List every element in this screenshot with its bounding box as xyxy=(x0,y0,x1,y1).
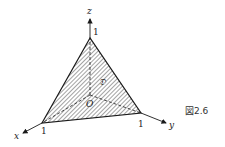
y-tick-label: 1 xyxy=(138,119,144,129)
x-axis-label: x xyxy=(14,131,19,141)
y-axis-label: y xyxy=(168,120,175,130)
x-axis xyxy=(23,123,42,133)
figure-caption: 図2.6 xyxy=(185,106,209,116)
x-tick-label: 1 xyxy=(41,126,47,136)
origin-label: O xyxy=(86,99,94,109)
z-axis-label: z xyxy=(86,6,92,16)
shaded-plane-face xyxy=(42,38,141,123)
y-axis xyxy=(141,113,166,123)
region-label: 𝔇 xyxy=(99,77,107,87)
tetrahedron-diagram: z 1 x 1 y 1 O 𝔇 図2.6 xyxy=(0,0,225,147)
z-tick-label: 1 xyxy=(93,27,99,37)
